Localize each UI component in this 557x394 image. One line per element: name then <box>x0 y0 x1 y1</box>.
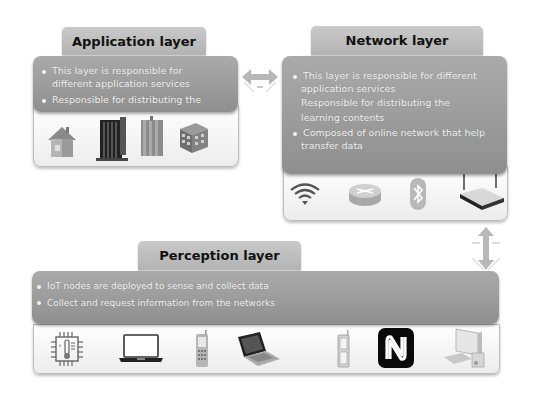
columns-building-icon <box>137 116 167 158</box>
network-layer-icon-tray <box>283 166 508 221</box>
router-icon <box>347 181 383 209</box>
wifi-icon <box>288 181 322 207</box>
perception-layer-icon-tray <box>33 324 500 374</box>
mobile-phone-icon <box>194 329 210 369</box>
application-layer-panel: This layer is responsible for different … <box>33 56 238 112</box>
nfc-icon <box>377 327 415 369</box>
application-layer-title-text: Application layer <box>72 34 196 49</box>
perception-layer-title: Perception layer <box>138 241 301 270</box>
office-block-icon <box>176 119 212 155</box>
network-bullet-cont: transfer data <box>292 140 501 153</box>
laptop-icon <box>118 333 164 365</box>
application-bullet-cont: different application services <box>41 78 232 91</box>
network-layer-title-text: Network layer <box>346 33 449 48</box>
network-bullet-cont: application services <box>292 83 501 96</box>
bluetooth-icon <box>408 177 428 211</box>
application-bullet: Responsible for distributing the <box>41 94 232 107</box>
perception-bullet: Collect and request information from the… <box>36 297 493 310</box>
network-layer-title: Network layer <box>311 26 483 55</box>
bidirectional-arrow-app-network <box>240 60 280 100</box>
network-layer-panel: This layer is responsible for different … <box>282 56 507 174</box>
network-bullet-cont: learning contents <box>292 112 501 125</box>
perception-bullet: IoT nodes are deployed to sense and coll… <box>36 280 493 293</box>
application-layer-title: Application layer <box>62 27 206 55</box>
temperature-sensor-chip-icon <box>50 330 84 368</box>
notebook-icon <box>236 331 282 367</box>
network-bullet-cont: Responsible for distributing the <box>292 97 501 110</box>
perception-layer-panel: IoT nodes are deployed to sense and coll… <box>32 271 499 324</box>
house-icon <box>44 123 80 159</box>
application-layer-icon-tray <box>33 105 239 167</box>
application-bullet: This layer is responsible for <box>41 65 232 78</box>
network-bullet: This layer is responsible for different <box>292 70 501 83</box>
desktop-computer-icon <box>442 327 488 369</box>
bidirectional-arrow-network-perception <box>466 226 506 272</box>
building-tower-icon <box>94 114 130 162</box>
network-bullet: Composed of online network that help <box>292 127 501 140</box>
flip-phone-icon <box>336 329 352 369</box>
perception-layer-title-text: Perception layer <box>159 248 280 263</box>
